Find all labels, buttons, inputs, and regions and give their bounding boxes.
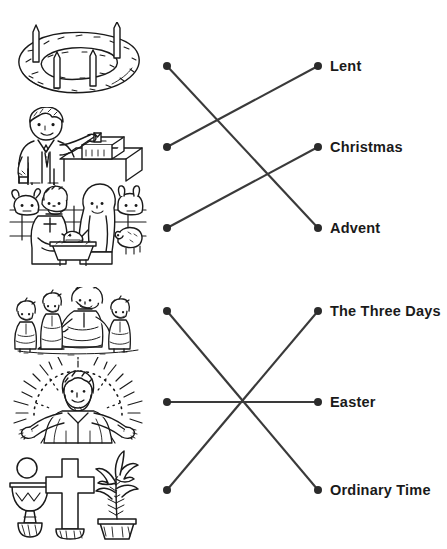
match-line-chalice-cross-palm-to-three-days[interactable] [167, 311, 318, 490]
dot-picture-advent-wreath[interactable] [163, 62, 171, 70]
nativity-illustration [8, 182, 148, 266]
picture-almsgiving[interactable] [8, 107, 148, 185]
almsgiving-illustration [8, 107, 148, 185]
matching-worksheet: Lent Christmas Advent The Three Days Eas… [0, 0, 447, 549]
label-advent[interactable]: Advent [330, 221, 380, 236]
advent-wreath-illustration [8, 22, 148, 104]
dot-label-christmas[interactable] [314, 143, 322, 151]
risen-jesus-illustration [8, 357, 148, 445]
dot-label-three-days[interactable] [314, 307, 322, 315]
match-lines-top-group [167, 66, 318, 228]
dot-label-lent[interactable] [314, 62, 322, 70]
match-line-nativity-to-christmas[interactable] [167, 147, 318, 228]
label-lent[interactable]: Lent [330, 59, 361, 74]
dot-label-advent[interactable] [314, 224, 322, 232]
picture-risen-jesus[interactable] [8, 357, 148, 445]
dot-label-ordinary-time[interactable] [314, 486, 322, 494]
picture-chalice-cross-palm[interactable] [8, 443, 148, 543]
dot-picture-jesus-with-children[interactable] [163, 307, 171, 315]
picture-advent-wreath[interactable] [8, 22, 148, 104]
label-christmas[interactable]: Christmas [330, 140, 403, 155]
dot-picture-nativity[interactable] [163, 224, 171, 232]
dot-picture-almsgiving[interactable] [163, 143, 171, 151]
picture-jesus-with-children[interactable] [8, 287, 148, 357]
match-line-almsgiving-to-lent[interactable] [167, 66, 318, 147]
picture-nativity[interactable] [8, 182, 148, 266]
label-ordinary-time[interactable]: Ordinary Time [330, 483, 431, 498]
dot-picture-chalice-cross-palm[interactable] [163, 486, 171, 494]
match-dots [163, 62, 322, 494]
match-line-jesus-with-children-to-ordinary-time[interactable] [167, 311, 318, 490]
chalice-cross-palm-illustration [8, 443, 148, 543]
dot-label-easter[interactable] [314, 398, 322, 406]
jesus-teaching-children-illustration [8, 287, 148, 357]
match-line-advent-wreath-to-advent[interactable] [167, 66, 318, 228]
label-three-days[interactable]: The Three Days [330, 304, 441, 319]
match-lines-bottom-group [167, 311, 318, 490]
cropped-header-text [0, 0, 447, 10]
dot-picture-risen-jesus[interactable] [163, 398, 171, 406]
label-easter[interactable]: Easter [330, 395, 376, 410]
